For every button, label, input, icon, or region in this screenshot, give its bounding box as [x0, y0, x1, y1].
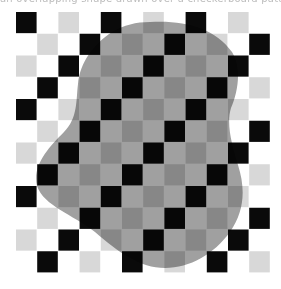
checkerboard-figure [0, 0, 281, 289]
overlapping-blob-shape [0, 0, 281, 289]
blob-outline [36, 22, 243, 268]
